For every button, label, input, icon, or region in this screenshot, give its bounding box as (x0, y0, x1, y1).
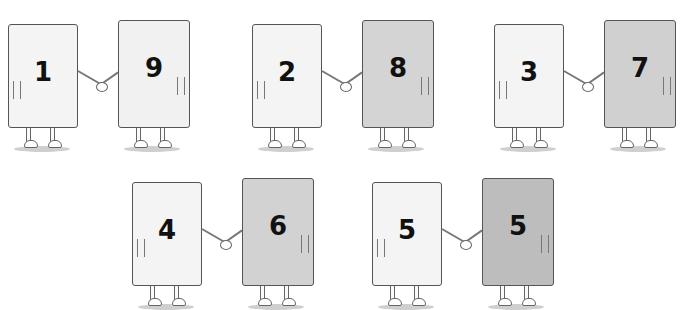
foot-icon (134, 140, 148, 148)
foot-icon (498, 298, 512, 306)
foot-icon (292, 140, 306, 148)
right-number-card: 9 (118, 20, 190, 128)
side-arm-icon (257, 81, 265, 99)
number-pair-1: 19 (0, 0, 210, 140)
number-pair-5: 55 (364, 158, 574, 298)
holding-hands-icon (220, 240, 232, 250)
left-number-card: 4 (132, 182, 202, 286)
side-arm-icon (377, 239, 385, 257)
foot-icon (510, 140, 524, 148)
side-arm-icon (421, 77, 429, 95)
foot-icon (258, 298, 272, 306)
holding-hands-icon (460, 240, 472, 250)
foot-icon (644, 140, 658, 148)
foot-icon (158, 140, 172, 148)
foot-icon (378, 140, 392, 148)
foot-icon (172, 298, 186, 306)
side-arm-icon (541, 235, 549, 253)
foot-icon (48, 140, 62, 148)
right-number-card: 8 (362, 20, 434, 128)
foot-icon (268, 140, 282, 148)
foot-icon (388, 298, 402, 306)
holding-hands-icon (582, 82, 594, 92)
foot-icon (412, 298, 426, 306)
foot-icon (282, 298, 296, 306)
side-arm-icon (13, 81, 21, 99)
foot-icon (620, 140, 634, 148)
side-arm-icon (663, 77, 671, 95)
foot-icon (534, 140, 548, 148)
side-arm-icon (301, 235, 309, 253)
right-number-card: 7 (604, 20, 676, 128)
foot-icon (148, 298, 162, 306)
left-number-card: 3 (494, 24, 564, 128)
right-number-card: 6 (242, 178, 314, 286)
number-pair-4: 46 (124, 158, 334, 298)
right-number-card: 5 (482, 178, 554, 286)
foot-icon (522, 298, 536, 306)
foot-icon (24, 140, 38, 148)
side-arm-icon (177, 77, 185, 95)
holding-hands-icon (340, 82, 352, 92)
holding-hands-icon (96, 82, 108, 92)
left-number-card: 5 (372, 182, 442, 286)
foot-icon (402, 140, 416, 148)
side-arm-icon (499, 81, 507, 99)
number-pair-3: 37 (486, 0, 684, 140)
number-pair-2: 28 (244, 0, 454, 140)
left-number-card: 1 (8, 24, 78, 128)
side-arm-icon (137, 239, 145, 257)
left-number-card: 2 (252, 24, 322, 128)
